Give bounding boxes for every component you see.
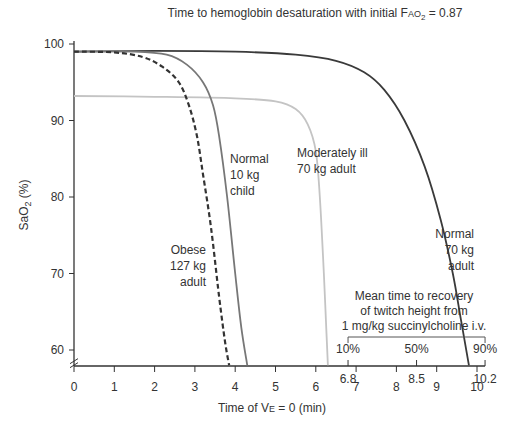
annotation-line: Mean time to recovery bbox=[355, 289, 474, 303]
series-curve-1 bbox=[74, 96, 328, 365]
series-label-line: 70 kg bbox=[445, 243, 474, 257]
series-label-line: 70 kg adult bbox=[297, 162, 356, 176]
x-tick-label: 3 bbox=[192, 380, 199, 394]
x-extra-tick-label: 10.2 bbox=[473, 372, 497, 386]
series-label-line: Normal bbox=[435, 227, 474, 241]
x-tick-label: 5 bbox=[272, 380, 279, 394]
y-tick-label: 80 bbox=[51, 190, 65, 204]
series-labels: Normal70 kgadultModerately ill70 kg adul… bbox=[170, 146, 475, 289]
series-label-0: Normal70 kgadult bbox=[435, 227, 474, 273]
y-axis-label: SaO2 (%) bbox=[17, 179, 33, 230]
series-label-line: adult bbox=[180, 275, 207, 289]
x-axis-label: Time of VE = 0 (min) bbox=[218, 401, 326, 415]
y-tick-label: 60 bbox=[51, 343, 65, 357]
x-tick-label: 4 bbox=[232, 380, 239, 394]
bracket-label: 50% bbox=[405, 342, 429, 356]
y-tick-label: 100 bbox=[44, 37, 64, 51]
series-label-3: Obese127 kgadult bbox=[170, 243, 207, 289]
x-tick-label: 2 bbox=[151, 380, 158, 394]
bracket-label: 90% bbox=[473, 342, 497, 356]
recovery-annotation: Mean time to recoveryof twitch height fr… bbox=[336, 289, 497, 356]
x-extra-tick-label: 8.5 bbox=[408, 372, 425, 386]
x-tick-label: 1 bbox=[111, 380, 118, 394]
series-label-line: Obese bbox=[171, 243, 207, 257]
series-label-line: child bbox=[230, 184, 255, 198]
annotation-line: of twitch height from bbox=[360, 304, 467, 318]
axes: 607080901000123456789106.88.510.2 bbox=[44, 37, 497, 394]
series-label-1: Moderately ill70 kg adult bbox=[297, 146, 368, 176]
series-label-line: 10 kg bbox=[230, 168, 259, 182]
series-label-line: Normal bbox=[230, 152, 269, 166]
desaturation-chart: Time to hemoglobin desaturation with ini… bbox=[0, 0, 520, 436]
annotation-line: 1 mg/kg succinylcholine i.v. bbox=[342, 319, 487, 333]
series-label-2: Normal10 kgchild bbox=[230, 152, 269, 198]
y-tick-label: 90 bbox=[51, 114, 65, 128]
series-label-line: 127 kg bbox=[170, 259, 206, 273]
x-tick-label: 6 bbox=[312, 380, 319, 394]
x-extra-tick-label: 6.8 bbox=[340, 372, 357, 386]
x-tick-label: 9 bbox=[433, 380, 440, 394]
y-tick-label: 70 bbox=[51, 267, 65, 281]
series-label-line: adult bbox=[448, 259, 475, 273]
series-curve-3 bbox=[74, 52, 229, 366]
series-label-line: Moderately ill bbox=[297, 146, 368, 160]
x-tick-label: 0 bbox=[71, 380, 78, 394]
x-tick-label: 8 bbox=[393, 380, 400, 394]
chart-title: Time to hemoglobin desaturation with ini… bbox=[168, 6, 463, 22]
bracket-label: 10% bbox=[336, 342, 360, 356]
